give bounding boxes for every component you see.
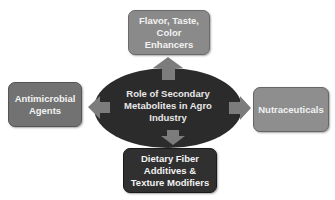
node-label-line: Color (139, 27, 199, 39)
node-label-line: Additives & (131, 165, 209, 177)
node-nutraceuticals: Nutraceuticals (253, 87, 329, 132)
node-label-line: Enhancers (139, 39, 199, 51)
node-label-line: Nutraceuticals (258, 104, 323, 116)
node-dietary-fiber-additives-texture-modifiers: Dietary Fiber Additives & Texture Modifi… (123, 148, 217, 193)
center-node-label: Role of Secondary Metabolites in Agro In… (110, 88, 226, 124)
node-label-line: Antimicrobial (15, 93, 76, 105)
node-label-line: Agents (15, 105, 76, 117)
node-label-line: Texture Modifiers (131, 177, 209, 189)
center-label-line: Role of Secondary (110, 88, 226, 100)
node-flavor-taste-color-enhancers: Flavor, Taste, Color Enhancers (128, 10, 210, 55)
node-antimicrobial-agents: Antimicrobial Agents (8, 82, 82, 127)
node-label-line: Dietary Fiber (131, 153, 209, 165)
center-label-line: Industry (110, 112, 226, 124)
center-label-line: Metabolites in Agro (110, 100, 226, 112)
node-label-line: Flavor, Taste, (139, 15, 199, 27)
